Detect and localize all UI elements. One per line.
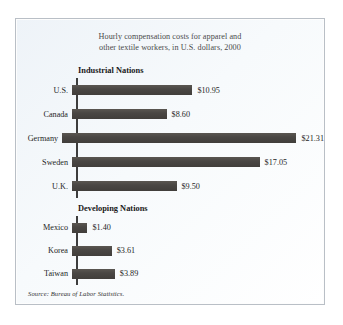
chart-title-line-2: other textile workers, in U.S. dollars, …	[40, 42, 300, 53]
bar-value-label: $8.60	[167, 110, 190, 119]
bar-value-label: $3.61	[112, 246, 135, 255]
bar-track: $3.89	[72, 262, 324, 285]
bar-track: $9.50	[72, 174, 324, 198]
plot-developing: Mexico $1.40 Korea $3.61 Taiwan $3.89	[16, 216, 324, 285]
chart-title-line-1: Hourly compensation costs for apparel an…	[40, 31, 300, 42]
bar-track: $21.31	[62, 126, 324, 150]
bar-label: Sweden	[16, 158, 72, 167]
bar	[62, 133, 296, 143]
bar-value-label: $17.05	[260, 158, 288, 167]
bar	[72, 181, 177, 191]
bar	[72, 85, 192, 95]
section-header-developing: Developing Nations	[16, 198, 324, 213]
chart-figure: Hourly compensation costs for apparel an…	[15, 18, 325, 305]
section-header-industrial: Industrial Nations	[16, 53, 324, 75]
bar-value-label: $3.89	[115, 269, 138, 278]
bar-value-label: $10.95	[192, 86, 220, 95]
plot-industrial: U.S. $10.95 Canada $8.60 Germany $21.31	[16, 78, 324, 198]
bar-row: Sweden $17.05	[16, 150, 324, 174]
bar-label: Canada	[16, 110, 72, 119]
bar-track: $1.40	[72, 216, 324, 239]
bar-label: U.K.	[16, 182, 72, 191]
bar-row: Canada $8.60	[16, 102, 324, 126]
bar-value-label: $1.40	[87, 223, 110, 232]
bar-label: Mexico	[16, 223, 72, 232]
bar-row: Germany $21.31	[16, 126, 324, 150]
bar	[72, 246, 112, 256]
bar-value-label: $21.31	[296, 134, 324, 143]
bar-label: Korea	[16, 246, 72, 255]
bar-label: Taiwan	[16, 269, 72, 278]
bar-label: U.S.	[16, 86, 72, 95]
chart-source: Source: Bureau of Labor Statistics.	[28, 290, 124, 297]
bar-row: Taiwan $3.89	[16, 262, 324, 285]
bar	[72, 223, 87, 233]
bar	[72, 157, 260, 167]
bar	[72, 109, 167, 119]
bar-row: Mexico $1.40	[16, 216, 324, 239]
bar-row: U.S. $10.95	[16, 78, 324, 102]
bar-row: U.K. $9.50	[16, 174, 324, 198]
bar-track: $3.61	[72, 239, 324, 262]
bar-track: $10.95	[72, 78, 324, 102]
bar	[72, 269, 115, 279]
bar-label: Germany	[16, 134, 62, 143]
bar-track: $8.60	[72, 102, 324, 126]
chart-title: Hourly compensation costs for apparel an…	[16, 19, 324, 53]
section-industrial-nations: Industrial Nations U.S. $10.95 Canada $8…	[16, 53, 324, 198]
bar-track: $17.05	[72, 150, 324, 174]
section-developing-nations: Developing Nations Mexico $1.40 Korea $3…	[16, 198, 324, 285]
bar-row: Korea $3.61	[16, 239, 324, 262]
bar-value-label: $9.50	[177, 182, 200, 191]
